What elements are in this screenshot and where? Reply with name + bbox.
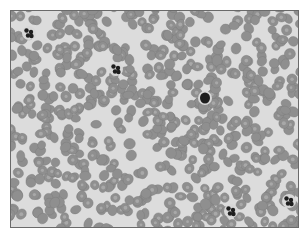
red-blood-cell <box>163 183 172 193</box>
white-blood-cell <box>22 26 36 40</box>
white-blood-cell <box>282 194 296 208</box>
red-blood-cell <box>209 162 219 171</box>
red-blood-cell <box>229 21 240 30</box>
micrograph-frame <box>10 10 299 228</box>
red-blood-cell <box>17 150 25 161</box>
red-blood-cell <box>277 35 288 43</box>
red-blood-cell <box>79 171 91 181</box>
blood-smear-image <box>11 11 298 227</box>
red-blood-cell <box>205 37 213 47</box>
white-blood-cell <box>109 62 123 76</box>
white-blood-cell <box>198 91 212 105</box>
red-blood-cell <box>35 174 45 185</box>
white-blood-cell <box>224 204 238 218</box>
red-blood-cell <box>91 120 102 128</box>
